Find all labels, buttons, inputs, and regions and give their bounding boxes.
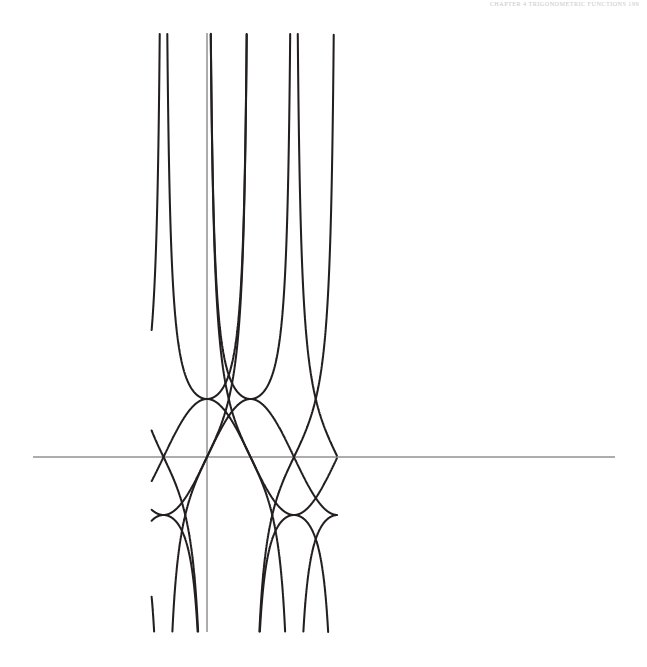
- axes-group: [33, 33, 615, 632]
- trig-plot-svg: [0, 0, 647, 667]
- trig-figure: CHAPTER 4 TRIGONOMETRIC FUNCTIONS 199: [0, 0, 647, 667]
- curves-group: [152, 34, 337, 632]
- curve-sec: [152, 34, 329, 632]
